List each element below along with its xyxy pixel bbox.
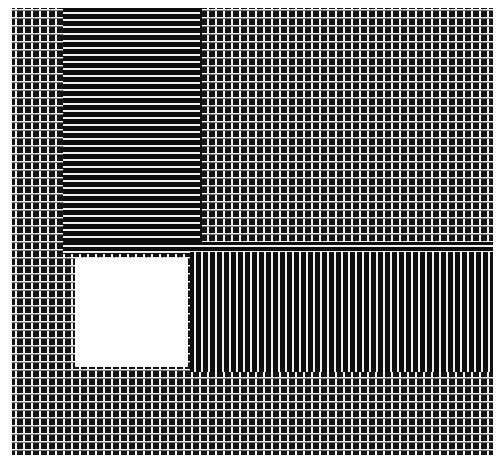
vertical-stripe-region [190,252,493,372]
horizontal-stripe-region [63,8,202,250]
blank-square-region [75,258,188,367]
texture-figure [12,8,493,455]
